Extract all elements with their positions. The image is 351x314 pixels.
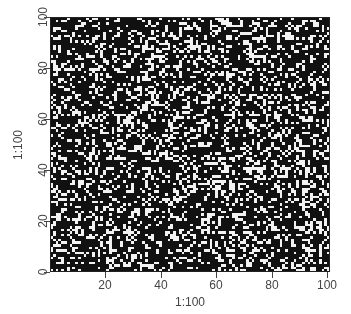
binary-matrix-image <box>50 17 330 272</box>
y-tick-label: 100 <box>36 2 50 32</box>
x-tick-label: 60 <box>201 278 231 292</box>
y-axis-title: 1:100 <box>11 125 25 165</box>
y-tick-label: 20 <box>36 206 50 236</box>
y-tick-label: 60 <box>36 104 50 134</box>
x-tick-label: 80 <box>257 278 287 292</box>
x-tick-label: 40 <box>146 278 176 292</box>
y-tick-label: 40 <box>36 155 50 185</box>
x-tick-label: 20 <box>90 278 120 292</box>
y-tick-label: 0 <box>36 257 50 287</box>
y-tick-label: 80 <box>36 53 50 83</box>
image-plot-area <box>50 17 330 272</box>
x-axis-title: 1:100 <box>170 295 210 309</box>
x-tick-label: 100 <box>312 278 342 292</box>
